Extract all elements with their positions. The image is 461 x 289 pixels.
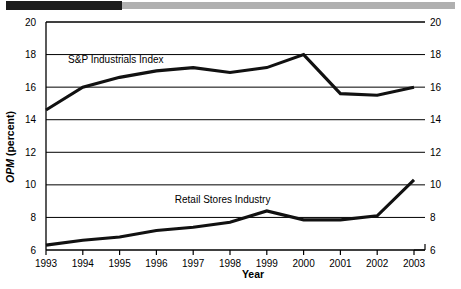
- series-line-2: [46, 180, 414, 245]
- x-tick-label-1996: 1996: [145, 258, 168, 269]
- y-axis-labels-right: 68101214161820: [414, 17, 442, 256]
- series-label-2: Retail Stores Industry: [175, 194, 271, 205]
- y-tick-label-right-18: 18: [430, 49, 442, 60]
- x-axis-ticks: [46, 250, 414, 255]
- y-axis-title: OPM (percent): [4, 111, 16, 183]
- header-rule-strip: [0, 0, 461, 12]
- x-axis-labels: 1993199419951996199719981999200020012002…: [35, 258, 426, 269]
- y-tick-label-right-10: 10: [430, 179, 442, 190]
- y-tick-label-right-12: 12: [430, 147, 442, 158]
- data-series: [46, 55, 414, 246]
- y-tick-label-left-14: 14: [25, 114, 37, 125]
- chart-canvas: 68101214161820 68101214161820 1993199419…: [0, 12, 461, 289]
- y-axis-title-plain: (percent): [4, 111, 16, 159]
- gridlines: [46, 22, 414, 217]
- x-tick-label-1997: 1997: [182, 258, 205, 269]
- y-tick-label-right-16: 16: [430, 82, 442, 93]
- x-axis-title: Year: [242, 268, 264, 280]
- y-tick-label-left-18: 18: [25, 49, 37, 60]
- y-axis-title-italic: OPM: [4, 159, 16, 183]
- y-tick-label-right-8: 8: [430, 212, 436, 223]
- x-tick-label-2001: 2001: [329, 258, 352, 269]
- y-tick-label-right-14: 14: [430, 114, 442, 125]
- y-tick-label-right-20: 20: [430, 17, 442, 28]
- series-label-1: S&P Industrials Index: [68, 54, 163, 65]
- y-axis-labels-left: 68101214161820: [25, 17, 37, 256]
- x-tick-label-1994: 1994: [72, 258, 95, 269]
- x-tick-label-2000: 2000: [292, 258, 315, 269]
- x-tick-label-1993: 1993: [35, 258, 58, 269]
- x-tick-label-2002: 2002: [366, 258, 389, 269]
- y-tick-label-left-16: 16: [25, 82, 37, 93]
- y-tick-label-left-12: 12: [25, 147, 37, 158]
- y-tick-label-left-6: 6: [30, 245, 36, 256]
- series-inline-labels: S&P Industrials IndexRetail Stores Indus…: [68, 54, 270, 205]
- y-tick-label-left-10: 10: [25, 179, 37, 190]
- x-tick-label-1995: 1995: [108, 258, 131, 269]
- dark-rule: [6, 1, 122, 10]
- x-tick-label-2003: 2003: [403, 258, 426, 269]
- x-tick-label-1998: 1998: [219, 258, 242, 269]
- line-chart-figure: 68101214161820 68101214161820 1993199419…: [0, 12, 461, 289]
- y-tick-label-right-6: 6: [430, 245, 436, 256]
- y-tick-label-left-20: 20: [25, 17, 37, 28]
- y-tick-label-left-8: 8: [30, 212, 36, 223]
- gray-rule: [122, 2, 455, 9]
